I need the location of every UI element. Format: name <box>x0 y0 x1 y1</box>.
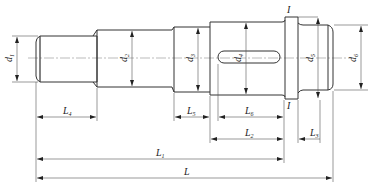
label-L6: L6 <box>244 105 254 117</box>
label-L: L <box>183 166 190 177</box>
svg-text:d4: d4 <box>232 54 244 62</box>
svg-text:d6: d6 <box>347 54 359 62</box>
extension-lines <box>12 17 368 182</box>
label-L4: L4 <box>62 105 72 117</box>
label-d6: d6 <box>347 54 359 62</box>
svg-text:d3: d3 <box>184 54 196 62</box>
shaft-drawing: I I d1 d2 d3 d4 d <box>0 0 371 191</box>
label-d3: d3 <box>184 54 196 62</box>
keyway-slot <box>218 51 280 63</box>
svg-text:d2: d2 <box>118 54 130 62</box>
svg-text:d1: d1 <box>3 54 15 62</box>
label-d2: d2 <box>118 54 130 62</box>
label-L1: L1 <box>155 147 165 159</box>
svg-text:d5: d5 <box>304 54 316 62</box>
label-d4: d4 <box>232 54 244 62</box>
label-L3: L3 <box>309 127 319 139</box>
label-d1: d1 <box>3 54 15 62</box>
label-d5: d5 <box>304 54 316 62</box>
label-L2: L2 <box>244 127 254 139</box>
label-L5: L5 <box>186 105 196 117</box>
section-mark-top: I <box>286 4 291 15</box>
section-mark-bottom: I <box>286 100 291 111</box>
